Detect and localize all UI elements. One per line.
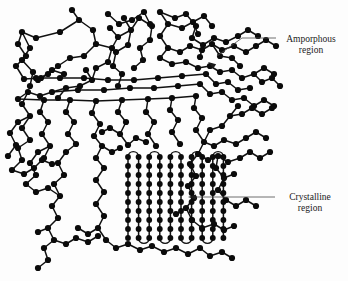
amorphous-node [93, 177, 99, 183]
amorphous-node [151, 85, 157, 91]
amorphous-node [199, 47, 205, 53]
amorphous-node [277, 83, 283, 89]
amorphous-bond [148, 98, 172, 99]
amorphous-bond [36, 32, 60, 38]
lamella-node [157, 181, 163, 187]
amorphous-node [101, 213, 107, 219]
amorphous-node [93, 155, 99, 161]
amorphous-node [49, 203, 55, 209]
amorphous-node [239, 111, 245, 117]
lamella-node [178, 163, 184, 169]
amorphous-node [175, 83, 181, 89]
lamella-node [221, 217, 227, 223]
lamella-node [178, 172, 184, 178]
amorphous-node [45, 225, 51, 231]
amorphous-node [49, 161, 55, 167]
amorphous-bond [84, 78, 108, 80]
amorphous-node [259, 111, 265, 117]
lamella-node [125, 172, 131, 178]
amorphous-node [71, 119, 77, 125]
amorphous-node [205, 157, 211, 163]
amorphous-node [101, 87, 107, 93]
amorphous-node [19, 101, 25, 107]
lamella-node [168, 163, 174, 169]
lamella-node [146, 226, 152, 232]
amorphous-node [223, 197, 229, 203]
amorphous-node [157, 55, 163, 61]
amorphous-node [117, 145, 123, 151]
amorphous-node [137, 247, 143, 253]
amorphous-node [169, 129, 175, 135]
amorphous-node [263, 135, 269, 141]
amorphous-node [93, 98, 99, 104]
amorphous-node [241, 95, 247, 101]
amorphous-node [119, 97, 125, 103]
amorphous-node [213, 81, 219, 87]
amorphous-node [15, 41, 21, 47]
lamella-node [136, 190, 142, 196]
amorphous-node [199, 225, 205, 231]
amorphous-node [273, 43, 279, 49]
amorphous-node [145, 96, 151, 102]
amorphous-node [211, 35, 217, 41]
amorphous-node [149, 243, 155, 249]
lamella-node [199, 190, 205, 196]
lamella-node [136, 226, 142, 232]
amorphous-node [219, 89, 225, 95]
amorphous-node [221, 227, 227, 233]
amorphous-node [63, 241, 69, 247]
amorphous-node [153, 143, 159, 149]
amorphous-node [73, 141, 79, 147]
amorphous-node [227, 113, 233, 119]
amorphous-node [109, 149, 115, 155]
amorphous-node [127, 85, 133, 91]
amorphous-node [57, 75, 63, 81]
lamella-node [178, 181, 184, 187]
amorphous-node [243, 135, 249, 141]
amorphous-node [19, 125, 25, 131]
amorphous-node [45, 119, 51, 125]
amorphous-node [101, 189, 107, 195]
lamella-node [157, 172, 163, 178]
lamella-node [199, 235, 205, 241]
amorphous-node [231, 223, 237, 229]
lamella-node [136, 235, 142, 241]
amorphous-node [47, 143, 53, 149]
lamella-node [221, 154, 227, 160]
amorphous-bond [158, 76, 182, 78]
lamella-node [221, 181, 227, 187]
lamella-node [178, 235, 184, 241]
amorphous-node [141, 9, 147, 15]
amorphous-node [175, 117, 181, 123]
lamella-node [199, 208, 205, 214]
lamella-node [199, 163, 205, 169]
amorphous-node [27, 137, 33, 143]
amorphous-node [233, 203, 239, 209]
amorphous-node [39, 157, 45, 163]
amorphous-node [113, 49, 119, 55]
crystalline-label-line1: Crystalline [289, 192, 331, 202]
amorphous-node [195, 31, 201, 37]
amorphous-node [9, 167, 15, 173]
lamella-node [136, 181, 142, 187]
amorphous-node [187, 43, 193, 49]
lamella-node [189, 235, 195, 241]
amorphous-node [91, 133, 97, 139]
amorphous-node [151, 119, 157, 125]
lamella-node [157, 226, 163, 232]
amorphous-node [67, 55, 73, 61]
amorphous-node [131, 65, 137, 71]
amorphous-node [253, 43, 259, 49]
amorphous-node [99, 129, 105, 135]
amorphous-node [267, 149, 273, 155]
amorphous-label-line1: Amporphous [286, 34, 336, 44]
amorphous-node [140, 57, 146, 63]
amorphous-node [147, 21, 153, 27]
amorphous-node [172, 15, 178, 21]
amorphous-node [261, 65, 267, 71]
amorphous-node [169, 95, 175, 101]
amorphous-node [63, 85, 69, 91]
amorphous-node [37, 109, 43, 115]
amorphous-node [201, 139, 207, 145]
amorphous-node [27, 83, 33, 89]
